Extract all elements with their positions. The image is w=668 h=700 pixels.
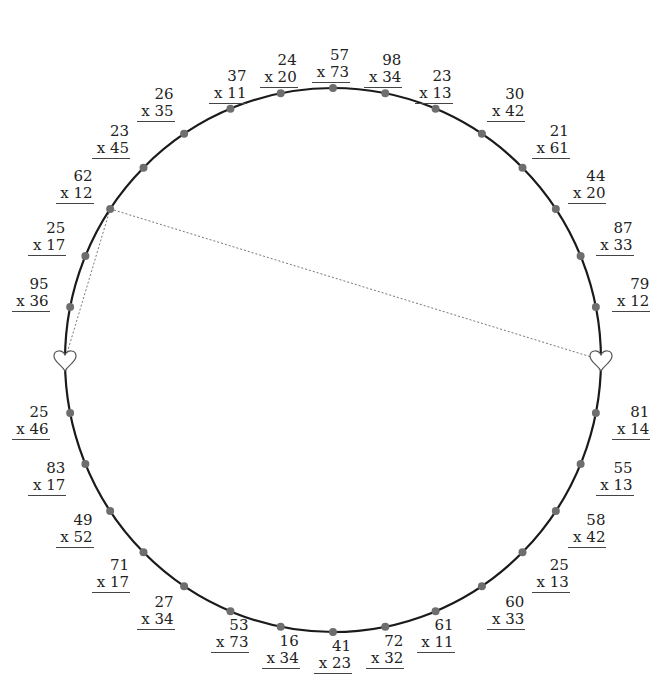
multiplier: x 13 [415,85,453,104]
multiplication-label: 57x 73 [312,47,350,83]
multiplier: x 17 [28,477,66,496]
multiplier: x 33 [596,237,634,256]
multiplier: x 17 [92,574,130,593]
multiplication-label: 37x 11 [209,68,247,104]
multiplication-label: 25x 17 [28,220,66,256]
multiplier: x 12 [56,185,94,204]
multiplicand: 72 [366,633,404,650]
multiplier: x 45 [92,140,130,159]
circle-dot [381,623,389,631]
multiplier: x 46 [12,421,50,440]
multiplier: x 23 [314,655,352,674]
multiplicand: 25 [532,557,570,574]
circle-dot [277,89,285,97]
multiplier: x 42 [487,103,525,122]
multiplicand: 44 [568,168,606,185]
multiplicand: 26 [137,86,175,103]
multiplicand: 55 [596,460,634,477]
circle-dot [226,105,234,113]
multiplication-label: 24x 20 [260,52,298,88]
multiplicand: 62 [56,168,94,185]
multiplicand: 23 [92,123,130,140]
heart-icon [54,351,76,371]
circle-canvas [0,0,668,700]
multiplicand: 30 [487,86,525,103]
multiplication-label: 41x 23 [314,638,352,674]
multiplicand: 79 [612,276,650,293]
multiplication-label: 53x 73 [211,617,249,653]
multiplicand: 21 [532,123,570,140]
multiplication-label: 79x 12 [612,276,650,312]
multiplicand: 95 [12,276,50,293]
multiplier: x 35 [137,103,175,122]
multiplication-label: 27x 34 [137,594,175,630]
circle-dot [381,89,389,97]
multiplicand: 16 [262,633,300,650]
circle-dot [277,623,285,631]
multiplication-label: 95x 36 [12,276,50,312]
circle-dot [577,252,585,260]
multiplier: x 20 [260,69,298,88]
multiplication-label: 21x 61 [532,123,570,159]
multiplier: x 61 [532,140,570,159]
chord-line [110,209,601,360]
multiplication-label: 30x 42 [487,86,525,122]
multiplication-label: 87x 33 [596,220,634,256]
circle-dot [519,548,527,556]
circle-dot [552,507,560,515]
circle-dot [519,164,527,172]
multiplication-label: 60x 33 [487,594,525,630]
multiplicand: 37 [209,68,247,85]
multiplication-label: 81x 14 [612,404,650,440]
multiplication-label: 25x 46 [12,404,50,440]
multiplicand: 23 [415,68,453,85]
circle-dot [106,205,114,213]
multiplication-circle-diagram: 57x 7398x 3423x 1330x 4221x 6144x 2087x … [0,0,668,700]
circle-dot [592,409,600,417]
multiplication-label: 25x 13 [532,557,570,593]
multiplication-label: 83x 17 [28,460,66,496]
circle-dot [180,582,188,590]
circle-dot [180,130,188,138]
multiplication-label: 98x 34 [364,52,402,88]
multiplication-label: 23x 45 [92,123,130,159]
multiplicand: 53 [211,617,249,634]
multiplier: x 34 [364,69,402,88]
multiplier: x 33 [487,611,525,630]
multiplicand: 41 [314,638,352,655]
multiplier: x 17 [28,237,66,256]
multiplier: x 13 [532,574,570,593]
multiplier: x 14 [612,421,650,440]
multiplicand: 83 [28,460,66,477]
multiplication-label: 55x 13 [596,460,634,496]
multiplicand: 98 [364,52,402,69]
multiplier: x 36 [12,293,50,312]
circle-dot [106,507,114,515]
multiplier: x 52 [56,529,94,548]
circle-dot [81,252,89,260]
multiplicand: 60 [487,594,525,611]
multiplicand: 61 [417,617,455,634]
multiplication-label: 72x 32 [366,633,404,669]
multiplier: x 13 [596,477,634,496]
multiplicand: 25 [12,404,50,421]
circle-dot [329,84,337,92]
circle-dot [432,105,440,113]
multiplication-label: 61x 11 [417,617,455,653]
circle-dot [329,628,337,636]
circle-dot [432,607,440,615]
multiplicand: 58 [568,512,606,529]
multiplication-label: 62x 12 [56,168,94,204]
multiplication-label: 71x 17 [92,557,130,593]
circle-dot [478,130,486,138]
multiplicand: 24 [260,52,298,69]
multiplication-label: 23x 13 [415,68,453,104]
multiplicand: 87 [596,220,634,237]
multiplication-label: 26x 35 [137,86,175,122]
multiplier: x 11 [209,85,247,104]
multiplier: x 42 [568,529,606,548]
circle-dot [592,303,600,311]
multiplication-label: 49x 52 [56,512,94,548]
multiplier: x 73 [211,634,249,653]
circle-dot [478,582,486,590]
